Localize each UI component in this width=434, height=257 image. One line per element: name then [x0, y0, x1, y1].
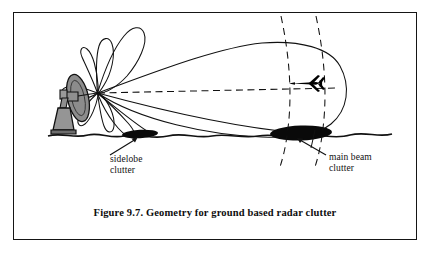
range-arc-near-dashed — [279, 16, 290, 170]
antenna-pedestal-foot — [51, 130, 76, 134]
antenna-mast — [60, 98, 68, 108]
sidelobe-clutter-label-line1: sidelobe — [110, 154, 142, 165]
figure-container: sidelobe clutter main beam clutter Figur… — [0, 0, 434, 257]
sidelobe-clutter-arrow — [110, 137, 138, 156]
ground-terrain-line — [48, 134, 392, 138]
sidelobe-petal-lower-right — [98, 93, 135, 137]
main-beam-lower-edge — [98, 93, 301, 133]
sidelobe-clutter-label-line2: clutter — [110, 165, 142, 176]
sidelobe-beam-to-ground — [98, 93, 151, 133]
figure-caption: Figure 9.7. Geometry for ground based ra… — [13, 207, 417, 218]
main-beam-clutter-label-line2: clutter — [329, 163, 372, 174]
sidelobe-clutter-label: sidelobe clutter — [110, 154, 142, 176]
main-beam-clutter-label-line1: main beam — [329, 152, 372, 163]
main-beam-clutter-label: main beam clutter — [329, 152, 372, 174]
boresight-dashed-line — [98, 88, 336, 93]
range-arc-far-dashed — [314, 16, 325, 170]
sidelobe-petal-upper — [97, 39, 114, 93]
antenna-pedestal — [53, 108, 74, 130]
aircraft-target — [289, 75, 325, 92]
radar-clutter-diagram — [0, 0, 434, 257]
